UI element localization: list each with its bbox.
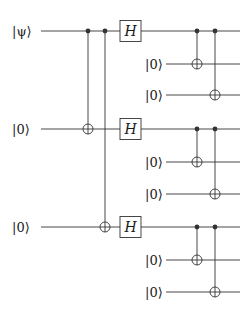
control-dot [103,29,108,34]
encoding-block-1: |0⟩|0⟩ [145,127,240,202]
cnot-gate-0 [83,29,93,134]
cnot-target [83,124,93,134]
control-dot [213,29,218,34]
svg-text:H: H [123,121,137,137]
cnot-target [210,189,220,199]
cnot-target [192,157,202,167]
cnot-target [192,59,202,69]
qubit-label: |0⟩ [12,122,30,137]
ancilla-label: |0⟩ [145,155,163,170]
svg-text:H: H [123,23,137,39]
control-dot [195,29,200,34]
control-dot [195,225,200,230]
encoding-block-2: |0⟩|0⟩ [145,225,240,300]
cnot-target [210,90,220,100]
cnot-target [192,255,202,265]
encoding-block-0: |0⟩|0⟩ [145,29,240,103]
ancilla-label: |0⟩ [145,187,163,202]
ancilla-label: |0⟩ [145,57,163,72]
qubit-label: |ψ⟩ [12,24,32,39]
ancilla-label: |0⟩ [145,88,163,103]
cnot-target [210,287,220,297]
control-dot [195,127,200,132]
hadamard-gate-2: H [120,217,141,238]
hadamard-gate-1: H [120,119,141,140]
cnot-gate-1 [100,29,110,232]
cnot-target [100,222,110,232]
control-dot [213,127,218,132]
hadamard-gate-0: H [120,21,141,42]
ancilla-label: |0⟩ [145,253,163,268]
control-dot [213,225,218,230]
qubit-label: |0⟩ [12,220,30,235]
quantum-circuit-diagram: |ψ⟩|0⟩|0⟩HHH|0⟩|0⟩|0⟩|0⟩|0⟩|0⟩ [0,0,252,317]
svg-text:H: H [123,219,137,235]
ancilla-label: |0⟩ [145,285,163,300]
control-dot [86,29,91,34]
